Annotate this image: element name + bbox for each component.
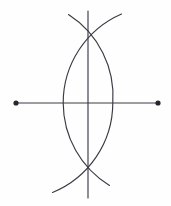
- construction-diagram: [0, 0, 171, 206]
- figure-canvas: Perpendicular bisector construction: [0, 0, 171, 206]
- right-endpoint-dot: [155, 100, 160, 105]
- left-endpoint-dot: [13, 100, 18, 105]
